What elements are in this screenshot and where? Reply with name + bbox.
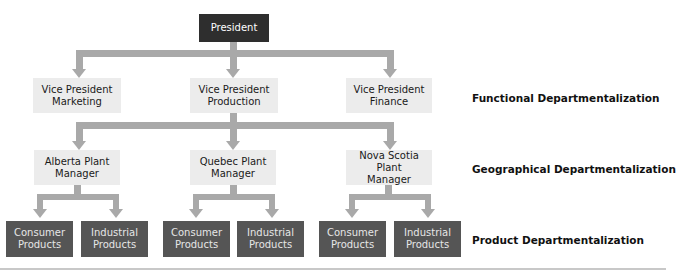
connector bbox=[269, 194, 275, 210]
vp-production-label: Vice President Production bbox=[199, 84, 270, 108]
level-label-functional: Functional Departmentalization bbox=[472, 92, 659, 104]
connector bbox=[349, 194, 431, 200]
connector bbox=[113, 194, 119, 210]
arrow-down-icon bbox=[72, 69, 86, 78]
arrow-down-icon bbox=[421, 209, 435, 218]
connector bbox=[193, 194, 275, 200]
nova-scotia-label: Nova Scotia Plant Manager bbox=[346, 150, 432, 186]
arrow-down-icon bbox=[383, 69, 397, 78]
level-label-product: Product Departmentalization bbox=[472, 234, 644, 246]
president-box: President bbox=[199, 14, 269, 42]
connector bbox=[387, 122, 394, 142]
president-label: President bbox=[211, 22, 258, 34]
connector bbox=[387, 50, 394, 70]
product-label: Industrial Products bbox=[404, 227, 451, 251]
product-label: Industrial Products bbox=[91, 227, 138, 251]
vp-finance-box: Vice President Finance bbox=[346, 78, 432, 113]
quebec-plant-manager-box: Quebec Plant Manager bbox=[190, 150, 276, 185]
product-label: Consumer Products bbox=[14, 227, 65, 251]
connector bbox=[425, 194, 431, 210]
arrow-down-icon bbox=[226, 141, 240, 150]
connector bbox=[76, 50, 83, 70]
product-box-industrial: Industrial Products bbox=[237, 221, 304, 257]
product-label: Consumer Products bbox=[327, 227, 378, 251]
bottom-divider bbox=[0, 268, 666, 270]
connector bbox=[230, 122, 237, 142]
product-box-consumer: Consumer Products bbox=[319, 221, 386, 257]
vp-marketing-label: Vice President Marketing bbox=[42, 84, 113, 108]
arrow-down-icon bbox=[72, 141, 86, 150]
vp-finance-label: Vice President Finance bbox=[354, 84, 425, 108]
vp-production-box: Vice President Production bbox=[190, 78, 278, 113]
product-box-industrial: Industrial Products bbox=[81, 221, 148, 257]
vp-marketing-box: Vice President Marketing bbox=[33, 78, 121, 113]
alberta-label: Alberta Plant Manager bbox=[45, 156, 110, 180]
arrow-down-icon bbox=[345, 209, 359, 218]
product-label: Consumer Products bbox=[171, 227, 222, 251]
arrow-down-icon bbox=[226, 69, 240, 78]
product-box-consumer: Consumer Products bbox=[6, 221, 73, 257]
connector bbox=[37, 194, 119, 200]
connector bbox=[230, 50, 237, 70]
level-label-geographical: Geographical Departmentalization bbox=[472, 163, 676, 175]
quebec-label: Quebec Plant Manager bbox=[200, 156, 267, 180]
arrow-down-icon bbox=[265, 209, 279, 218]
connector bbox=[193, 194, 199, 210]
product-box-consumer: Consumer Products bbox=[163, 221, 230, 257]
arrow-down-icon bbox=[189, 209, 203, 218]
product-label: Industrial Products bbox=[247, 227, 294, 251]
arrow-down-icon bbox=[109, 209, 123, 218]
product-box-industrial: Industrial Products bbox=[394, 221, 461, 257]
connector bbox=[76, 122, 83, 142]
arrow-down-icon bbox=[33, 209, 47, 218]
nova-scotia-plant-manager-box: Nova Scotia Plant Manager bbox=[346, 150, 432, 185]
connector bbox=[37, 194, 43, 210]
connector bbox=[349, 194, 355, 210]
alberta-plant-manager-box: Alberta Plant Manager bbox=[34, 150, 120, 185]
